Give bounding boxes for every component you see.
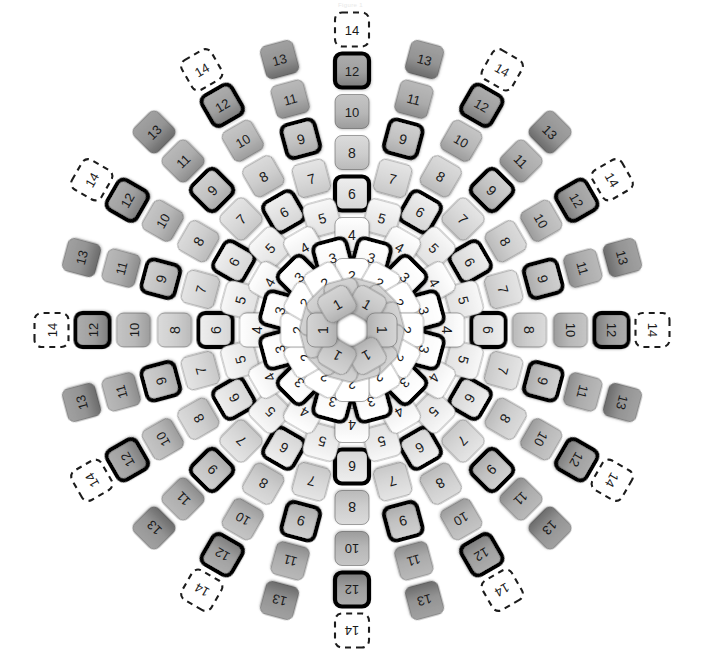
tile-value: 1: [374, 326, 390, 334]
tile-value: 14: [45, 323, 60, 337]
tile: 7: [180, 269, 222, 311]
tile-value: 8: [521, 326, 537, 334]
tile-highlighted: 9: [280, 118, 322, 160]
tile-boundary: 14: [35, 313, 69, 347]
tile-highlighted: 12: [554, 437, 600, 483]
tile-highlighted: 9: [522, 360, 564, 402]
tile-highlighted: 12: [459, 82, 505, 128]
tile: 11: [562, 371, 604, 413]
tile-highlighted: 12: [335, 573, 369, 607]
tile-value: 12: [345, 582, 359, 597]
tile-value: 1: [315, 326, 331, 334]
tile: 8: [158, 313, 192, 347]
tile-highlighted: 12: [199, 82, 245, 128]
tile-value: 10: [127, 323, 142, 337]
tile-boundary: 14: [335, 614, 369, 648]
tile-highlighted: 9: [382, 118, 424, 160]
tile: 11: [269, 78, 311, 120]
tile-highlighted: 9: [280, 500, 322, 542]
tile-value: 8: [348, 499, 356, 515]
tile: 7: [372, 158, 414, 200]
tile: 11: [562, 247, 604, 289]
tile-value: 6: [480, 326, 496, 334]
tile-value: 12: [345, 64, 359, 79]
tile: 13: [404, 580, 446, 622]
tile-highlighted: 12: [554, 177, 600, 223]
tile-value: 10: [345, 105, 359, 120]
tile-highlighted: 12: [104, 437, 150, 483]
tile-highlighted: 9: [382, 500, 424, 542]
tile: 13: [61, 237, 103, 279]
tile-value: 12: [604, 323, 619, 337]
tile: 7: [291, 158, 333, 200]
tile: 7: [372, 461, 414, 503]
tile: 13: [259, 580, 301, 622]
tile-highlighted: 6: [335, 450, 369, 484]
tile: 11: [393, 540, 435, 582]
tile-value: 8: [348, 145, 356, 161]
tile-boundary: 14: [335, 13, 369, 47]
tile-highlighted: 6: [472, 313, 506, 347]
tile: 10: [554, 313, 588, 347]
tile-value: 6: [208, 326, 224, 334]
tile-highlighted: 12: [335, 54, 369, 88]
tile-value: 6: [348, 458, 356, 474]
tile: 13: [404, 39, 446, 81]
tile-highlighted: 12: [104, 177, 150, 223]
tile-value: 10: [345, 541, 359, 556]
tile: 8: [335, 136, 369, 170]
tile: 10: [335, 532, 369, 566]
tile: 11: [393, 78, 435, 120]
tile-boundary: 14: [636, 313, 670, 347]
tile: 10: [117, 313, 151, 347]
tile: 13: [602, 382, 644, 424]
tile-highlighted: 12: [459, 532, 505, 578]
tile: 8: [513, 313, 547, 347]
tile-value: 4: [439, 326, 455, 334]
tile: 13: [602, 237, 644, 279]
tile: 11: [100, 247, 142, 289]
tile-highlighted: 9: [522, 258, 564, 300]
tile-value: 4: [348, 417, 356, 433]
tile: 10: [335, 95, 369, 129]
tile-highlighted: 12: [199, 532, 245, 578]
radial-tile-mandala: 1414141414141414141414141313131313131313…: [0, 0, 701, 655]
tile-value: 14: [645, 323, 660, 337]
tile: 8: [335, 491, 369, 525]
tile-value: 10: [563, 323, 578, 337]
tile-value: 4: [249, 326, 265, 334]
tile: 13: [259, 39, 301, 81]
tile-highlighted: 6: [335, 177, 369, 211]
tile-highlighted: 9: [140, 360, 182, 402]
tile: 11: [100, 371, 142, 413]
tile-highlighted: 12: [76, 313, 110, 347]
tile: 13: [61, 382, 103, 424]
tile: 11: [269, 540, 311, 582]
tile: 7: [483, 269, 525, 311]
tile: 7: [180, 350, 222, 392]
tile: 7: [483, 350, 525, 392]
tile-highlighted: 9: [140, 258, 182, 300]
tile-value: 4: [348, 227, 356, 243]
tile: 7: [291, 461, 333, 503]
tile-value: 8: [167, 326, 183, 334]
tile-value: 6: [348, 186, 356, 202]
tile-value: 12: [86, 323, 101, 337]
tile-highlighted: 6: [199, 313, 233, 347]
tile-value: 14: [345, 623, 359, 638]
tile-highlighted: 12: [595, 313, 629, 347]
tile-value: 14: [345, 23, 359, 38]
